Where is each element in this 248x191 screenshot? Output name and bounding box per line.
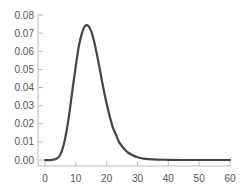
y-tick-label: 0.04 <box>15 82 35 93</box>
x-tick-label: 60 <box>224 173 236 184</box>
y-tick-label: 0.06 <box>15 46 35 57</box>
x-tick-label: 20 <box>101 173 113 184</box>
y-tick-label: 0.02 <box>15 118 35 129</box>
y-axis: 0.000.010.020.030.040.050.060.070.08 <box>15 10 43 167</box>
y-tick-label: 0.05 <box>15 64 35 75</box>
density-curve <box>45 25 230 160</box>
y-tick-label: 0.08 <box>15 10 35 21</box>
density-chart: 0.000.010.020.030.040.050.060.070.08 010… <box>0 0 248 191</box>
y-tick-label: 0.00 <box>15 155 35 166</box>
x-tick-label: 0 <box>42 173 48 184</box>
y-tick-label: 0.01 <box>15 136 35 147</box>
y-tick-label: 0.07 <box>15 28 35 39</box>
x-tick-label: 10 <box>70 173 82 184</box>
x-tick-label: 40 <box>163 173 175 184</box>
x-tick-label: 30 <box>132 173 144 184</box>
y-tick-label: 0.03 <box>15 100 35 111</box>
x-tick-label: 50 <box>194 173 206 184</box>
x-axis: 0102030405060 <box>38 161 236 184</box>
